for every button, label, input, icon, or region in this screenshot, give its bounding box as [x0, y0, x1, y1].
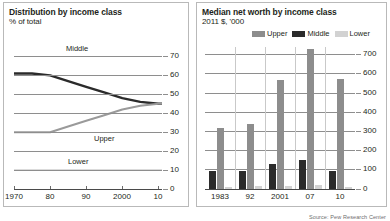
x-tick-mark — [122, 186, 123, 189]
y-tick-mark — [356, 189, 361, 190]
y-tick-label: 50 — [170, 90, 179, 98]
legend-label-upper: Upper — [267, 30, 287, 38]
x-tick-mark — [14, 186, 15, 189]
x-tick-mark — [158, 186, 159, 189]
y-tick-label: 0 — [363, 185, 367, 193]
group-divider — [295, 47, 296, 189]
x-tick-mark — [86, 186, 87, 189]
bar-lower-92 — [255, 186, 262, 189]
legend-item-lower: Lower — [335, 30, 370, 38]
gridline — [14, 132, 162, 133]
group-divider — [265, 47, 266, 189]
y-tick-label: 400 — [363, 108, 376, 116]
bar-middle-92 — [239, 171, 246, 189]
right-plot-area: 010020030040050060070019839220010710 — [205, 47, 355, 189]
legend-item-middle: Middle — [292, 30, 329, 38]
bar-upper-07 — [307, 49, 314, 189]
y-tick-mark — [163, 170, 168, 171]
y-tick-label: 300 — [363, 127, 376, 135]
bar-upper-10 — [337, 79, 344, 189]
gridline — [205, 73, 355, 74]
y-tick-mark — [356, 73, 361, 74]
legend-swatch-upper — [252, 31, 265, 37]
y-tick-label: 20 — [170, 147, 179, 155]
y-tick-mark — [356, 131, 361, 132]
x-tick-label: 90 — [82, 192, 91, 201]
y-tick-label: 0 — [170, 185, 174, 193]
bar-chart-legend: UpperMiddleLower — [252, 30, 370, 38]
right-chart-subtitle: 2011 $, '000 — [202, 17, 244, 27]
y-tick-mark — [163, 56, 168, 57]
x-tick-label: 2000 — [113, 192, 131, 201]
x-tick-mark — [50, 186, 51, 189]
y-tick-label: 30 — [170, 128, 179, 136]
x-axis-line — [205, 189, 355, 190]
right-chart-panel: Median net worth by income class 2011 $,… — [196, 2, 387, 207]
bar-middle-2001 — [269, 164, 276, 189]
left-plot-area: Middle Upper Lower 010203040506070197080… — [14, 47, 162, 189]
left-chart-title: Distribution by income class — [9, 7, 122, 17]
series-label-upper: Upper — [94, 135, 114, 143]
x-tick-label: 1983 — [211, 192, 229, 201]
legend-swatch-middle — [292, 31, 305, 37]
line-series-upper — [14, 104, 162, 132]
x-axis-line — [14, 189, 162, 190]
bar-lower-2001 — [285, 186, 292, 190]
gridline — [14, 75, 162, 76]
gridline — [14, 94, 162, 95]
bar-lower-10 — [345, 187, 352, 189]
x-tick-label: 1970 — [5, 192, 23, 201]
gridline — [14, 151, 162, 152]
legend-label-middle: Middle — [307, 30, 329, 38]
group-divider — [235, 47, 236, 189]
bar-middle-07 — [299, 160, 306, 189]
bar-middle-1983 — [209, 171, 216, 189]
left-series-lines — [14, 47, 162, 189]
y-tick-mark — [356, 54, 361, 55]
group-divider — [325, 47, 326, 189]
gridline — [14, 170, 162, 171]
left-chart-panel: Distribution by income class % of total … — [3, 2, 189, 207]
y-tick-label: 60 — [170, 71, 179, 79]
y-tick-mark — [163, 113, 168, 114]
bar-middle-10 — [329, 171, 336, 189]
legend-item-upper: Upper — [252, 30, 287, 38]
x-tick-label: 92 — [246, 192, 255, 201]
line-series-middle — [14, 74, 162, 104]
x-tick-label: 10 — [154, 192, 163, 201]
y-tick-label: 100 — [363, 165, 376, 173]
gridline — [14, 56, 162, 57]
y-tick-mark — [356, 93, 361, 94]
y-tick-mark — [163, 132, 168, 133]
legend-label-lower: Lower — [350, 30, 370, 38]
bar-lower-07 — [315, 185, 322, 189]
y-tick-mark — [356, 169, 361, 170]
bar-upper-2001 — [277, 80, 284, 189]
bar-upper-1983 — [217, 128, 224, 189]
left-chart-subtitle: % of total — [9, 17, 41, 27]
bar-upper-92 — [247, 124, 254, 189]
y-tick-label: 70 — [170, 52, 179, 60]
y-tick-label: 600 — [363, 69, 376, 77]
x-tick-label: 07 — [306, 192, 315, 201]
y-tick-mark — [356, 150, 361, 151]
source-note: Source: Pew Research Center — [309, 214, 386, 220]
y-tick-mark — [163, 151, 168, 152]
legend-swatch-lower — [335, 31, 348, 37]
y-tick-mark — [356, 112, 361, 113]
series-label-lower: Lower — [68, 158, 88, 166]
figure-root: Distribution by income class % of total … — [0, 0, 390, 221]
y-tick-label: 40 — [170, 109, 179, 117]
y-tick-label: 500 — [363, 89, 376, 97]
y-tick-mark — [163, 94, 168, 95]
x-tick-label: 10 — [336, 192, 345, 201]
y-tick-label: 700 — [363, 50, 376, 58]
right-chart-title: Median net worth by income class — [202, 7, 337, 17]
y-tick-label: 200 — [363, 146, 376, 154]
x-tick-label: 2001 — [271, 192, 289, 201]
series-label-middle: Middle — [66, 45, 88, 53]
bar-lower-1983 — [225, 187, 232, 189]
gridline — [14, 113, 162, 114]
x-tick-label: 80 — [46, 192, 55, 201]
gridline — [205, 54, 355, 55]
